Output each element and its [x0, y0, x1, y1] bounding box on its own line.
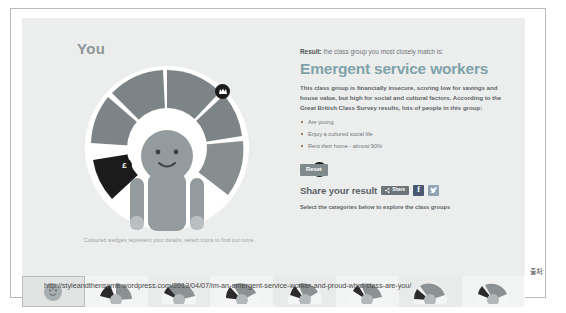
culture-icon[interactable] — [215, 84, 230, 99]
class-calculator-widget: You — [22, 18, 525, 276]
money-icon[interactable]: £ — [117, 158, 132, 173]
reset-button[interactable]: Reset — [300, 164, 328, 176]
source-label: 출처: — [530, 266, 544, 276]
class-traits-list: Are young Enjoy a cultured social life R… — [300, 119, 525, 150]
wheel-graphic — [60, 48, 275, 233]
result-intro-rest: the class group you most closely match i… — [322, 48, 443, 55]
facebook-icon[interactable]: f — [413, 185, 424, 196]
share-button[interactable]: Share — [381, 186, 409, 195]
list-item: Are young — [300, 119, 525, 126]
result-intro-prefix: Result: — [300, 48, 322, 55]
share-icon — [385, 188, 390, 193]
explore-note: Select the categories below to explore t… — [300, 204, 525, 210]
share-label: Share your result — [300, 185, 377, 196]
list-item: Rent their home - almost 90% — [300, 143, 525, 150]
class-group-description: This class group is financially insecure… — [300, 83, 514, 113]
wheel-caption: Coloured wedges represent your details, … — [84, 237, 255, 243]
wheel-panel: You — [22, 18, 287, 233]
result-panel: Result: the class group you most closely… — [300, 48, 525, 210]
twitter-icon[interactable] — [428, 185, 439, 196]
class-group-title: Emergent service workers — [300, 61, 525, 77]
share-button-label: Share — [392, 188, 405, 193]
thumb-class-7[interactable] — [462, 276, 525, 307]
screenshot-root: You — [0, 0, 566, 313]
source-url: http://styleandthensome.wordpress.com/20… — [44, 281, 411, 290]
class-wheel[interactable]: £ — [60, 48, 275, 233]
list-item: Enjoy a cultured social life — [300, 131, 525, 138]
image-frame: You — [10, 8, 546, 298]
result-intro: Result: the class group you most closely… — [300, 48, 525, 56]
share-row: Share your result Share f — [300, 185, 525, 196]
